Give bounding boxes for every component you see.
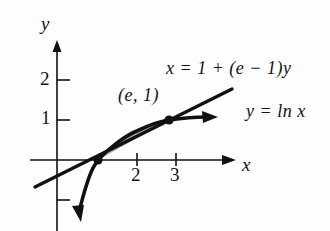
y-axis-label: y [41, 14, 49, 33]
point-e-1 [164, 115, 173, 124]
ln-curve-right-arrowhead [202, 111, 218, 123]
point-origin-intersection [93, 155, 102, 164]
x-tick-label-3: 3 [170, 165, 180, 184]
x-axis-arrowhead [222, 155, 236, 165]
line-equation-label: x = 1 + (e − 1)y [166, 59, 291, 77]
ln-curve-down-arrowhead [72, 205, 84, 222]
curve-equation-label: y = ln x [246, 102, 306, 120]
point-label-e-1: (e, 1) [118, 86, 159, 104]
x-axis-label: x [242, 155, 250, 174]
x-tick-label-2: 2 [131, 165, 141, 184]
y-tick-label-2: 2 [40, 69, 50, 88]
y-tick-label-1: 1 [41, 108, 51, 127]
y-axis-arrowhead [53, 40, 62, 52]
